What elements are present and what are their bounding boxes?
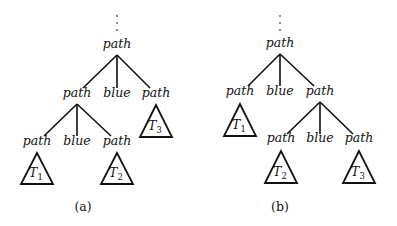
subtree-label: T1: [232, 117, 246, 134]
tree-edge: [280, 54, 314, 86]
tree-edge: [44, 104, 77, 136]
node-label-blue: blue: [63, 133, 90, 148]
ellipsis-dot: [116, 15, 118, 17]
root-node-label: path: [266, 35, 295, 50]
subtree-label: T1: [29, 165, 43, 182]
node-label-path: path: [23, 133, 52, 148]
ellipsis-dot: [279, 15, 281, 17]
subtree-label: T2: [273, 164, 287, 181]
node-label-path: path: [63, 85, 92, 100]
subtree-label: T2: [109, 165, 123, 182]
node-label-path: path: [345, 130, 374, 145]
ellipsis-dot: [116, 29, 118, 31]
subtree-label: T3: [148, 118, 162, 135]
panel-a-caption: (a): [74, 199, 91, 214]
node-label-blue: blue: [306, 130, 333, 145]
ellipsis-dot: [279, 22, 281, 24]
node-label-path: path: [267, 130, 296, 145]
panel-b-caption: (b): [271, 199, 289, 214]
node-label-path: path: [142, 85, 171, 100]
tree-edge: [248, 54, 280, 86]
subtree-label: T3: [351, 164, 365, 181]
tree-edge: [117, 55, 150, 88]
panel-a-tree: pathpathbluepathpathbluepathT3T1T2: [21, 15, 172, 184]
node-label-path: path: [103, 133, 132, 148]
ellipsis-dot: [279, 29, 281, 31]
ellipsis-dot: [116, 22, 118, 24]
root-node-label: path: [103, 36, 132, 51]
node-label-blue: blue: [266, 83, 293, 98]
node-label-path: path: [226, 83, 255, 98]
panel-b-tree: pathpathbluepathpathbluepathT1T2T3: [224, 15, 375, 183]
tree-diagram-canvas: pathpathbluepathpathbluepathT3T1T2 pathp…: [0, 0, 397, 226]
node-label-path: path: [306, 83, 335, 98]
tree-edge: [83, 55, 117, 88]
tree-edge: [77, 104, 111, 136]
node-label-blue: blue: [103, 85, 130, 100]
